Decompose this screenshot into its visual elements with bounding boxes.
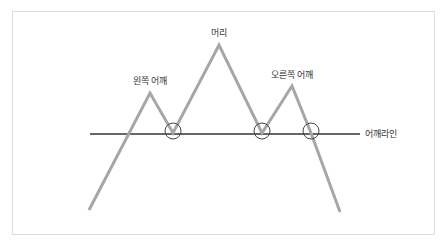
head-and-shoulders-diagram: 왼쪽 어깨 머리 오른쪽 어깨 어깨라인 <box>0 0 444 245</box>
left-shoulder-label: 왼쪽 어깨 <box>133 75 168 86</box>
neckline-touch-circles <box>165 123 319 139</box>
neckline-label: 어깨라인 <box>365 128 397 139</box>
head-label: 머리 <box>211 28 227 38</box>
right-shoulder-label: 오른쪽 어깨 <box>271 69 314 80</box>
